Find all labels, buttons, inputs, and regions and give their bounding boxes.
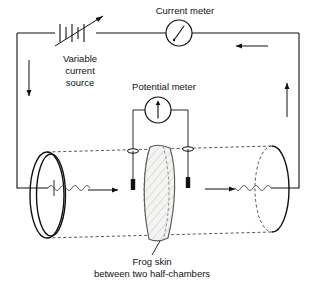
frog-skin-leader [152, 241, 160, 255]
current-meter-label: Current meter [156, 5, 215, 16]
variable-source-label-line2: current [65, 65, 95, 76]
frog-skin-membrane [138, 140, 186, 248]
variable-current-source[interactable] [55, 16, 103, 46]
frog-skin-label-line1: Frog skin [132, 256, 171, 267]
left-potential-probe [128, 149, 139, 190]
potential-meter-label: Potential meter [132, 81, 196, 92]
right-electrode-coil [235, 186, 271, 191]
variable-source-label-line1: Variable [63, 53, 97, 64]
potential-meter[interactable] [145, 97, 171, 123]
diagram-canvas: Current meter Potential meter Variable c… [0, 0, 316, 283]
frog-skin-label-line2: between two half-chambers [94, 268, 210, 279]
left-electrode-coil [48, 180, 90, 196]
circuit-diagram-figure: Current meter Potential meter Variable c… [0, 0, 316, 283]
right-potential-probe [183, 147, 194, 188]
current-meter[interactable] [166, 20, 192, 46]
variable-source-label-line3: source [66, 77, 95, 88]
